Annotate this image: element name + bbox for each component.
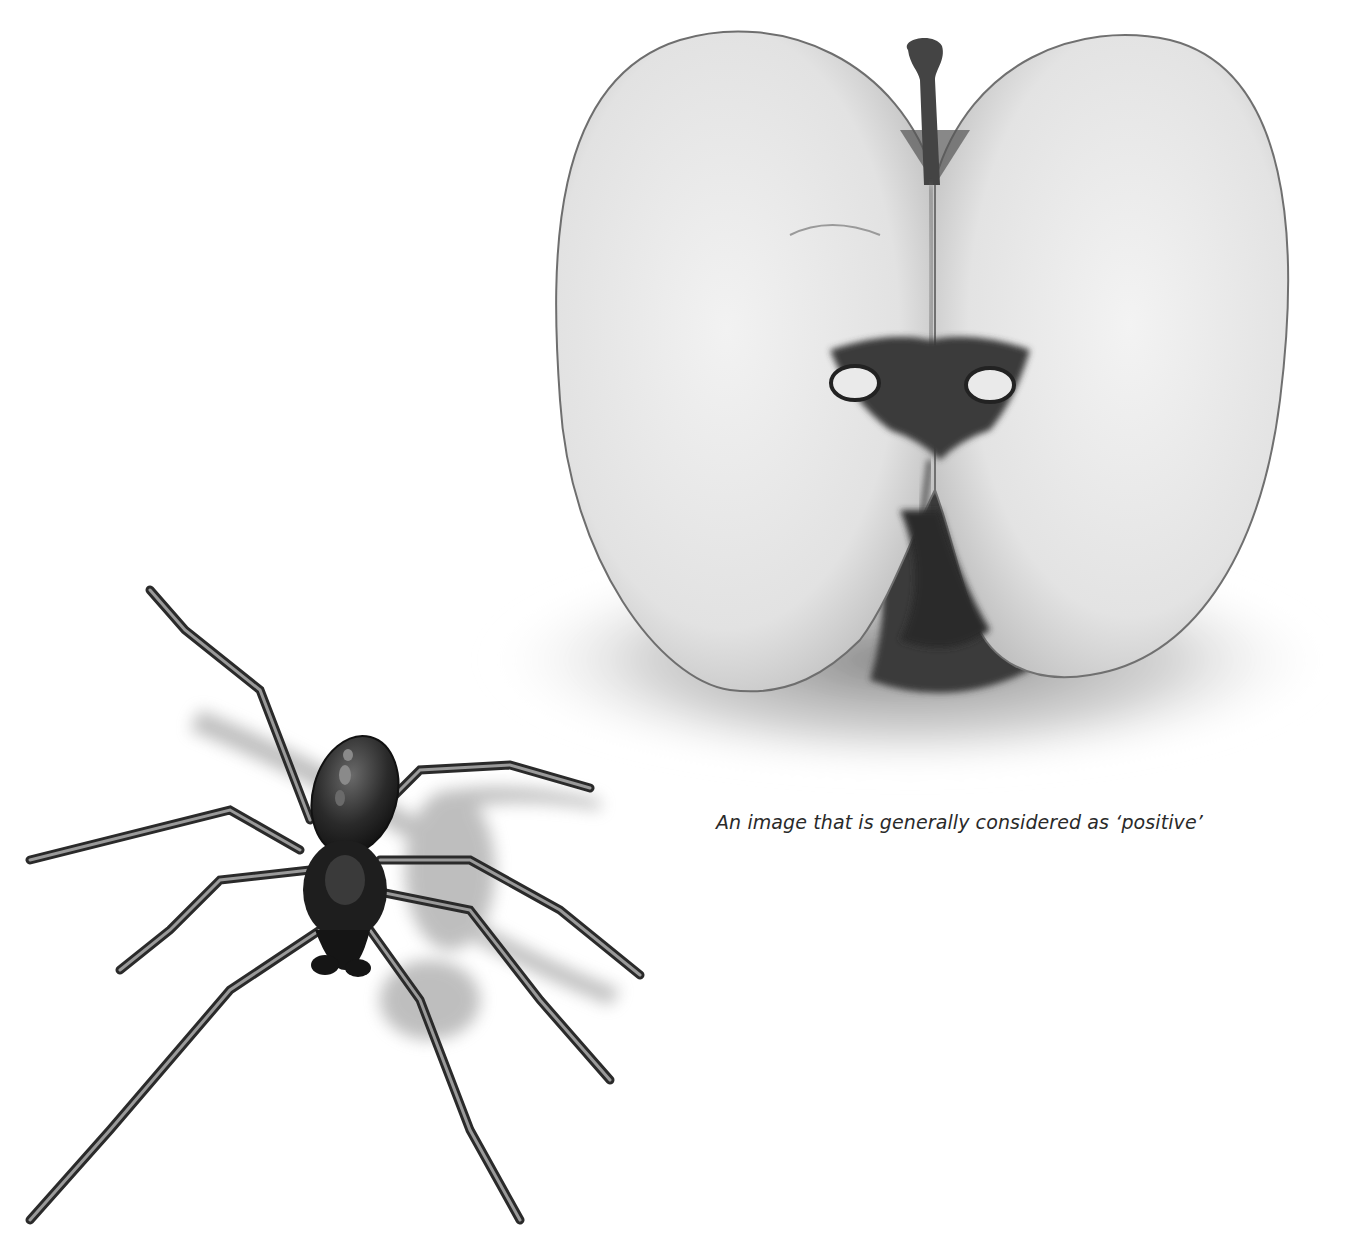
spider-pedipalp-left — [311, 955, 339, 975]
spider-illustration — [0, 570, 700, 1260]
spider-image — [0, 570, 700, 1260]
spider-pedipalp-right — [345, 959, 371, 977]
image-caption: An image that is generally considered as… — [716, 811, 1203, 833]
seed-right — [966, 368, 1014, 402]
seed-left — [831, 366, 879, 400]
